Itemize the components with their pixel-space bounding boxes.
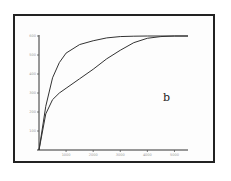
x-tick-label: 1000 [62,153,71,157]
chart: 10020030040050060010002000300040005000b [0,0,231,181]
y-tick-label: 300 [29,91,36,95]
x-tick-label: 4000 [143,153,152,157]
panel-label: b [163,91,170,104]
y-tick-label: 600 [29,34,36,38]
x-tick-label: 5000 [170,153,179,157]
y-tick-label: 100 [29,129,36,133]
y-tick-label: 200 [29,110,36,114]
y-tick-label: 500 [29,53,36,57]
x-tick-label: 3000 [116,153,125,157]
y-tick-label: 400 [29,72,36,76]
x-tick-label: 2000 [89,153,98,157]
